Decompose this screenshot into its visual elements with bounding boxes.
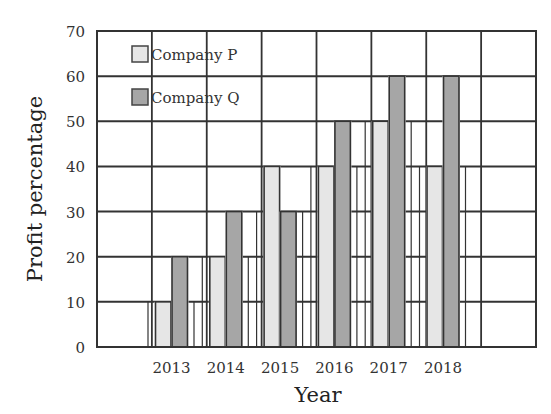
bar-company-q-2017: [389, 76, 405, 347]
bar-company-p-2017: [373, 121, 389, 347]
x-tick-label: 2017: [370, 359, 408, 377]
bar-company-p-2013: [156, 302, 172, 347]
bar-company-q-2013: [172, 257, 188, 347]
y-tick-label: 60: [66, 68, 85, 86]
x-tick-label: 2016: [315, 359, 353, 377]
x-axis-title: Year: [293, 383, 342, 407]
legend-swatch-company-q: [132, 89, 148, 105]
legend-swatch-company-p: [132, 46, 148, 62]
x-tick-label: 2018: [424, 359, 462, 377]
legend-label-company-p: Company P: [151, 46, 237, 64]
bar-company-p-2014: [210, 257, 226, 347]
y-tick-label: 20: [66, 249, 85, 267]
bar-company-q-2018: [444, 76, 460, 347]
bar-company-q-2014: [226, 212, 242, 347]
bar-company-p-2015: [264, 166, 280, 347]
bar-company-q-2015: [281, 212, 297, 347]
y-tick-label: 40: [66, 158, 85, 176]
legend-label-company-q: Company Q: [151, 89, 239, 107]
bar-chart: 010203040506070 201320142015201620172018…: [0, 0, 551, 414]
y-tick-label: 0: [75, 339, 85, 357]
bar-company-p-2016: [318, 166, 334, 347]
x-axis-ticks: 201320142015201620172018: [152, 359, 462, 377]
bar-company-p-2018: [427, 166, 443, 347]
grid-lines: [97, 31, 536, 347]
y-axis-ticks: 010203040506070: [66, 23, 85, 357]
y-tick-label: 30: [66, 204, 85, 222]
x-tick-label: 2013: [152, 359, 190, 377]
y-axis-title: Profit percentage: [23, 96, 47, 282]
x-tick-label: 2015: [261, 359, 299, 377]
y-tick-label: 70: [66, 23, 85, 41]
x-tick-label: 2014: [207, 359, 245, 377]
bar-company-q-2016: [335, 121, 351, 347]
y-tick-label: 50: [66, 113, 85, 131]
y-tick-label: 10: [66, 294, 85, 312]
